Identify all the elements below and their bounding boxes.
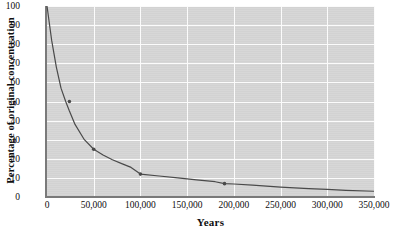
- data-point-markers: [68, 100, 227, 186]
- x-axis-title: Years: [47, 216, 374, 228]
- data-point-marker: [68, 100, 72, 104]
- data-point-marker: [92, 147, 96, 151]
- data-point-marker: [139, 172, 143, 176]
- decay-curve-plot: [0, 0, 394, 238]
- decay-curve-line: [47, 6, 374, 191]
- decay-curve-figure: Percentage of original concentration 010…: [0, 0, 394, 238]
- data-point-marker: [223, 182, 227, 186]
